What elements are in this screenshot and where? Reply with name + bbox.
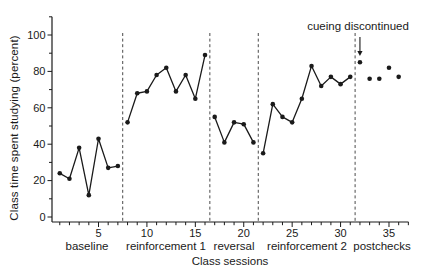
x-tick-label: 10	[141, 227, 153, 239]
data-point	[106, 166, 111, 171]
series-line	[128, 55, 205, 122]
data-point	[261, 151, 266, 156]
y-tick-label: 40	[33, 138, 45, 150]
data-point	[222, 140, 227, 145]
x-tick-label: 5	[95, 227, 101, 239]
data-point	[232, 120, 237, 125]
data-point	[309, 64, 314, 69]
x-tick-label: 25	[286, 227, 298, 239]
data-point	[338, 82, 343, 87]
phase-label-reinforcement-1: reinforcement 1	[126, 240, 206, 252]
y-tick-label: 20	[33, 174, 45, 186]
phase-label-baseline: baseline	[66, 240, 109, 252]
y-tick-label: 0	[39, 211, 45, 223]
cueing-discontinued-annotation: cueing discontinued	[307, 20, 409, 32]
data-point	[77, 146, 82, 151]
y-axis-title: Class time spent studying (percent)	[8, 35, 20, 221]
x-tick-label: 20	[238, 227, 250, 239]
data-point	[212, 115, 217, 120]
data-point	[348, 75, 353, 80]
data-point	[241, 122, 246, 127]
data-point	[280, 115, 285, 120]
study-behavior-chart: 0204060801005101520253035 Class time spe…	[0, 0, 423, 280]
x-tick-label: 30	[334, 227, 346, 239]
data-point	[300, 96, 305, 101]
data-point	[193, 96, 198, 101]
data-point	[270, 102, 275, 107]
data-point	[67, 176, 72, 181]
data-point	[164, 65, 169, 70]
x-axis-title: Class sessions	[192, 255, 269, 267]
x-tick-label: 15	[189, 227, 201, 239]
data-point	[57, 171, 62, 176]
data-point	[96, 136, 101, 141]
data-point	[183, 73, 188, 78]
data-point	[290, 120, 295, 125]
y-tick-label: 100	[27, 29, 45, 41]
data-point	[319, 84, 324, 89]
data-point	[116, 164, 121, 169]
y-tick-label: 80	[33, 65, 45, 77]
data-point	[135, 91, 140, 96]
data-point	[377, 76, 382, 81]
data-point	[174, 89, 179, 94]
data-point	[358, 60, 363, 65]
data-point	[87, 193, 92, 198]
phase-label-reinforcement-2: reinforcement 2	[267, 240, 347, 252]
data-point	[145, 89, 150, 94]
phase-label-postchecks: postchecks	[353, 240, 411, 252]
data-point	[329, 75, 334, 80]
data-point	[251, 140, 256, 145]
data-point	[387, 65, 392, 70]
data-point	[154, 73, 159, 78]
chart-canvas: 0204060801005101520253035	[0, 0, 423, 280]
data-point	[203, 53, 208, 58]
phase-label-reversal: reversal	[214, 240, 255, 252]
x-tick-label: 35	[383, 227, 395, 239]
y-tick-label: 60	[33, 102, 45, 114]
data-point	[367, 76, 372, 81]
data-point	[125, 120, 130, 125]
series-line	[263, 66, 350, 153]
annotation-arrow-head	[357, 51, 362, 56]
data-point	[396, 75, 401, 80]
